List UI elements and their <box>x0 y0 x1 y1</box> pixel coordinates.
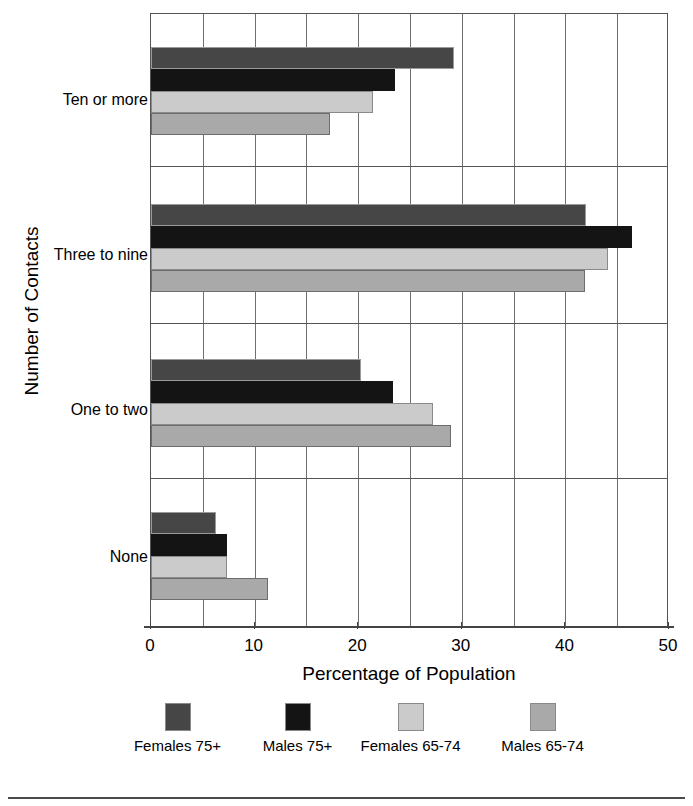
x-axis-title: Percentage of Population <box>150 663 668 685</box>
legend-swatch-females-65-74 <box>398 703 424 731</box>
gridline-45 <box>617 14 618 626</box>
x-tick-0 <box>150 622 151 629</box>
chart-legend: Females 75+ Males 75+ Females 65-74 Male… <box>0 703 693 773</box>
plot-area <box>150 13 668 626</box>
bar-none-females-65-74 <box>151 556 227 578</box>
bar-none-males-65-74 <box>151 578 268 600</box>
x-tick-label-0: 0 <box>120 636 180 656</box>
gridline-35 <box>514 14 515 626</box>
category-separator-2 <box>151 323 667 324</box>
x-tick-label-40: 40 <box>534 636 594 656</box>
bar-ten-or-more-males-65-74 <box>151 113 330 135</box>
gridline-25 <box>410 14 411 626</box>
legend-swatch-males-65-74 <box>530 703 556 731</box>
bar-three-to-nine-females-75plus <box>151 204 586 226</box>
x-tick-10 <box>254 622 255 629</box>
bar-one-to-two-males-65-74 <box>151 425 451 447</box>
x-tick-30 <box>461 622 462 629</box>
category-separator-1 <box>151 166 667 167</box>
bar-ten-or-more-males-75plus <box>151 69 395 91</box>
y-category-label-ten-or-more: Ten or more <box>8 91 148 109</box>
bar-three-to-nine-males-75plus <box>151 226 632 248</box>
bar-chart: Number of Contacts Ten or more Three to … <box>0 0 693 806</box>
category-separator-3 <box>151 478 667 479</box>
y-category-label-three-to-nine: Three to nine <box>8 246 148 264</box>
bar-three-to-nine-males-65-74 <box>151 270 585 292</box>
bar-one-to-two-females-65-74 <box>151 403 433 425</box>
y-axis-title: Number of Contacts <box>21 201 43 421</box>
x-tick-50 <box>668 622 669 629</box>
bar-three-to-nine-females-65-74 <box>151 248 608 270</box>
y-category-label-one-to-two: One to two <box>8 401 148 419</box>
x-tick-label-20: 20 <box>327 636 387 656</box>
bar-ten-or-more-females-65-74 <box>151 91 373 113</box>
bar-ten-or-more-females-75plus <box>151 47 454 69</box>
x-tick-label-50: 50 <box>638 636 693 656</box>
bar-none-females-75plus <box>151 512 216 534</box>
x-axis-line <box>144 626 674 628</box>
bar-none-males-75plus <box>151 534 227 556</box>
legend-swatch-males-75plus <box>285 703 311 731</box>
legend-swatch-females-75plus <box>165 703 191 731</box>
x-tick-label-30: 30 <box>431 636 491 656</box>
x-tick-20 <box>357 622 358 629</box>
legend-label-males-65-74: Males 65-74 <box>465 737 620 754</box>
bar-one-to-two-males-75plus <box>151 381 393 403</box>
legend-item-males-65-74: Males 65-74 <box>465 703 620 754</box>
bar-one-to-two-females-75plus <box>151 359 361 381</box>
gridline-40 <box>565 14 566 626</box>
x-tick-40 <box>564 622 565 629</box>
gridline-30 <box>462 14 463 626</box>
x-tick-label-10: 10 <box>224 636 284 656</box>
y-category-label-none: None <box>8 548 148 566</box>
footer-divider <box>8 797 685 799</box>
